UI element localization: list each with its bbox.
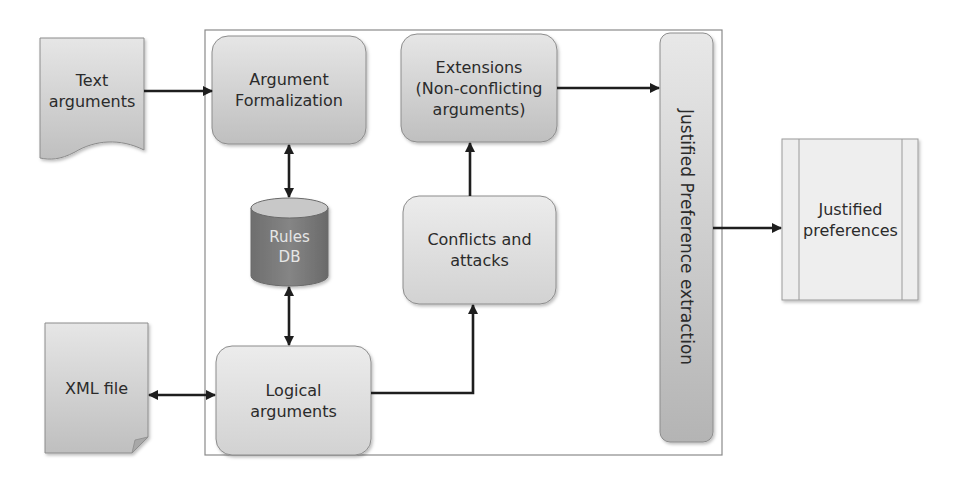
rules-db-cylinder[interactable]: [251, 198, 328, 286]
justified-preferences-shape[interactable]: [782, 139, 918, 300]
text-arguments-shape[interactable]: [40, 38, 144, 159]
xml-file-shape[interactable]: [45, 323, 148, 453]
justified-preference-extraction-bar[interactable]: [660, 33, 713, 442]
conflicts-attacks-box[interactable]: [403, 196, 556, 304]
flowchart-diagram: [0, 0, 960, 484]
extensions-box[interactable]: [401, 34, 557, 142]
argument-formalization-box[interactable]: [212, 36, 366, 144]
logical-arguments-box[interactable]: [216, 346, 371, 455]
edge-logical-to-conflicts: [371, 305, 473, 393]
